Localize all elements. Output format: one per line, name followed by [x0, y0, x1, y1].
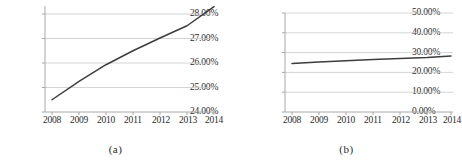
panel-caption-a: (a): [0, 144, 231, 155]
x-tick-label-a-4: 2012: [152, 116, 170, 126]
axis-lines-a: [45, 6, 216, 112]
data-line-b: [292, 56, 451, 64]
x-axis-tick-labels-a: 2008 2009 2010 2011 2012 2013 2014: [0, 116, 231, 130]
panel-caption-b: (b): [231, 144, 462, 155]
chart-panel-b: 50.00% 40.00% 30.00% 20.00% 10.00% 0.00%: [231, 0, 462, 166]
x-tick-label-a-1: 2009: [70, 116, 88, 126]
x-tick-label-b-0: 2008: [283, 116, 301, 126]
x-tick-label-b-6: 2014: [443, 116, 461, 126]
x-tick-label-a-3: 2011: [124, 116, 142, 126]
plot-area-b: 50.00% 40.00% 30.00% 20.00% 10.00% 0.00%: [231, 0, 462, 140]
x-tick-label-a-5: 2013: [179, 116, 197, 126]
x-tick-label-a-0: 2008: [43, 116, 61, 126]
x-tick-label-a-2: 2010: [97, 116, 115, 126]
x-tick-label-b-2: 2010: [337, 116, 355, 126]
two-panel-line-chart-figure: 28.00% 27.00% 26.00% 25.00% 24.00%: [0, 0, 462, 166]
gridlines-b: [285, 13, 453, 92]
x-tick-label-a-6: 2014: [205, 116, 223, 126]
x-tick-label-b-4: 2012: [392, 116, 410, 126]
plot-area-a: 28.00% 27.00% 26.00% 25.00% 24.00%: [0, 0, 231, 140]
gridlines-a: [45, 14, 216, 88]
x-tick-label-b-5: 2013: [419, 116, 437, 126]
x-tick-label-b-3: 2011: [364, 116, 382, 126]
x-axis-tick-labels-b: 2008 2009 2010 2011 2012 2013 2014: [231, 116, 462, 130]
chart-panel-a: 28.00% 27.00% 26.00% 25.00% 24.00%: [0, 0, 231, 166]
x-tick-label-b-1: 2009: [310, 116, 328, 126]
data-line-a: [52, 7, 214, 100]
